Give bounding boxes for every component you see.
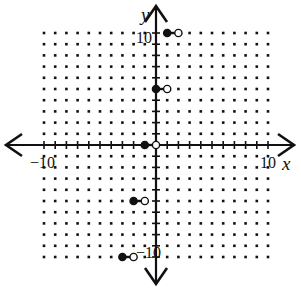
- grid-dot: [233, 233, 236, 236]
- grid-dot: [244, 155, 247, 158]
- grid-dot: [256, 245, 259, 248]
- grid-dot: [99, 110, 102, 113]
- grid-dot: [76, 189, 79, 192]
- grid-dot: [222, 222, 225, 225]
- grid-dot: [267, 245, 270, 248]
- grid-dot: [177, 88, 180, 91]
- grid-dot: [256, 65, 259, 68]
- y-min-label: −10: [136, 244, 161, 261]
- grid-dot: [110, 32, 113, 35]
- closed-endpoint-icon: [119, 253, 126, 260]
- grid-dot: [200, 54, 203, 57]
- step-segment: [164, 29, 182, 36]
- grid-dot: [256, 177, 259, 180]
- grid-dot: [256, 32, 259, 35]
- grid-dot: [211, 256, 214, 259]
- grid-dot: [76, 54, 79, 57]
- x-max-label: 10: [260, 154, 276, 171]
- grid-dot: [211, 99, 214, 102]
- grid-dot: [188, 88, 191, 91]
- grid-dot: [211, 110, 214, 113]
- grid-dot: [54, 32, 57, 35]
- grid-dot: [244, 88, 247, 91]
- grid-dot: [65, 54, 68, 57]
- grid-dot: [222, 65, 225, 68]
- grid-dot: [233, 189, 236, 192]
- step-segment: [130, 197, 148, 204]
- grid-dot: [132, 65, 135, 68]
- grid-dot: [144, 189, 147, 192]
- grid-dot: [256, 121, 259, 124]
- grid-dot: [211, 166, 214, 169]
- grid-dot: [43, 256, 46, 259]
- grid-dot: [43, 211, 46, 214]
- grid-dot: [256, 222, 259, 225]
- grid-dot: [65, 211, 68, 214]
- grid-dot: [244, 43, 247, 46]
- grid-dot: [65, 155, 68, 158]
- grid-dot: [188, 99, 191, 102]
- grid-dot: [99, 177, 102, 180]
- grid-dot: [222, 133, 225, 136]
- grid-dot: [132, 211, 135, 214]
- grid-dot: [76, 110, 79, 113]
- grid-dot: [54, 99, 57, 102]
- grid-dot: [132, 88, 135, 91]
- grid-dot: [43, 110, 46, 113]
- grid-dot: [166, 233, 169, 236]
- grid-dot: [200, 88, 203, 91]
- grid-dot: [110, 121, 113, 124]
- grid-dot: [99, 32, 102, 35]
- grid-dot: [76, 121, 79, 124]
- grid-dot: [211, 155, 214, 158]
- grid-dot: [256, 189, 259, 192]
- grid-dot: [76, 245, 79, 248]
- grid-dot: [200, 43, 203, 46]
- grid-dot: [110, 99, 113, 102]
- grid-dot: [110, 211, 113, 214]
- grid-dot: [54, 121, 57, 124]
- grid-dot: [177, 166, 180, 169]
- grid-dot: [65, 256, 68, 259]
- grid-dot: [200, 211, 203, 214]
- grid-dot: [132, 54, 135, 57]
- grid-dot: [267, 88, 270, 91]
- grid-dot: [132, 121, 135, 124]
- grid-dot: [244, 65, 247, 68]
- grid-dot: [54, 177, 57, 180]
- grid-dot: [267, 211, 270, 214]
- grid-dot: [267, 77, 270, 80]
- grid-dot: [244, 32, 247, 35]
- grid-dot: [99, 222, 102, 225]
- grid-dot: [222, 177, 225, 180]
- grid-dot: [166, 54, 169, 57]
- grid-dot: [233, 245, 236, 248]
- grid-dot: [166, 43, 169, 46]
- grid-dot: [54, 245, 57, 248]
- grid-dot: [76, 43, 79, 46]
- grid-dot: [244, 121, 247, 124]
- grid-dot: [166, 166, 169, 169]
- step-function-chart: y x −10 10 10 −10: [0, 0, 301, 292]
- grid-dot: [200, 133, 203, 136]
- grid-dot: [88, 155, 91, 158]
- grid-dot: [132, 245, 135, 248]
- grid-dot: [132, 189, 135, 192]
- grid-dot: [244, 211, 247, 214]
- grid-dot: [188, 200, 191, 203]
- grid-dot: [267, 222, 270, 225]
- grid-dot: [65, 65, 68, 68]
- y-axis-label: y: [139, 4, 150, 25]
- grid-dot: [177, 200, 180, 203]
- grid-dot: [233, 166, 236, 169]
- grid-dot: [99, 99, 102, 102]
- grid-dot: [54, 65, 57, 68]
- grid-dot: [99, 245, 102, 248]
- grid-dot: [177, 43, 180, 46]
- grid-dot: [132, 32, 135, 35]
- grid-dot: [43, 77, 46, 80]
- grid-dot: [166, 65, 169, 68]
- grid-dot: [54, 133, 57, 136]
- grid-dot: [76, 99, 79, 102]
- grid-dot: [177, 54, 180, 57]
